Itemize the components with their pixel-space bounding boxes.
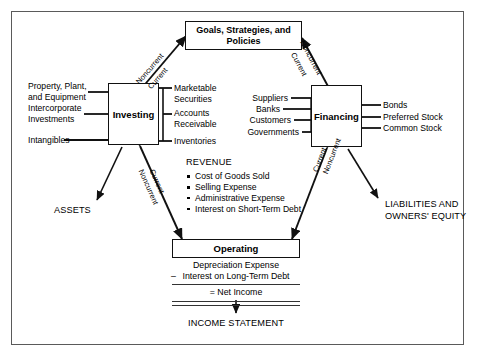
label-customers: Customers: [238, 115, 291, 126]
label-banks: Banks: [238, 104, 280, 115]
label-governments: Governments: [238, 127, 299, 138]
revenue-item: Selling Expense: [186, 182, 304, 192]
income-line-interest-text: Interest on Long-Term Debt: [182, 271, 289, 281]
node-operating[interactable]: Operating: [172, 239, 300, 258]
income-operator-equals: =: [210, 287, 215, 297]
node-investing[interactable]: Investing: [108, 83, 159, 145]
income-rule-single: [172, 284, 300, 285]
node-goals-strategies-policies[interactable]: Goals, Strategies, and Policies: [185, 21, 302, 50]
revenue-item: Interest on Short-Term Debt: [186, 204, 304, 214]
revenue-list: Cost of Goods Sold Selling Expense Admin…: [186, 171, 304, 214]
edge-financing-liabilities: [348, 149, 378, 198]
diagram-page: Goals, Strategies, and Policies Investin…: [0, 0, 477, 359]
label-liabilities-owners-equity: LIABILITIES AND OWNERS' EQUITY: [385, 199, 466, 222]
revenue-item: Administrative Expense: [186, 193, 304, 203]
income-statement-block: Depreciation Expense – Interest on Long-…: [172, 260, 300, 306]
revenue-heading: REVENUE: [186, 157, 304, 167]
income-rule-double: [172, 301, 300, 306]
label-bonds: Bonds: [383, 100, 463, 111]
node-investing-label: Investing: [113, 109, 155, 120]
label-accounts-receivable: Accounts Receivable: [174, 108, 244, 129]
label-intangibles: Intangibles: [28, 135, 88, 146]
label-marketable-securities: Marketable Securities: [174, 83, 244, 104]
label-property-plant-equipment: Property, Plant, and Equipment: [28, 81, 90, 102]
income-statement-footer: INCOME STATEMENT: [172, 318, 300, 328]
node-financing-label: Financing: [314, 111, 359, 122]
label-common-stock: Common Stock: [383, 123, 468, 134]
label-assets: ASSETS: [54, 205, 91, 217]
revenue-block: REVENUE Cost of Goods Sold Selling Expen…: [186, 157, 304, 215]
income-operator-minus: –: [171, 271, 176, 282]
income-line-net-income-text: Net Income: [217, 287, 262, 297]
label-suppliers: Suppliers: [238, 93, 288, 104]
label-intercorporate-investments: Intercorporate Investments: [28, 103, 86, 124]
income-line-depreciation: Depreciation Expense: [172, 260, 300, 271]
income-line-net-income: = Net Income: [172, 287, 300, 298]
revenue-item: Cost of Goods Sold: [186, 171, 304, 181]
income-line-interest-long-term: – Interest on Long-Term Debt: [172, 271, 300, 282]
label-preferred-stock: Preferred Stock: [383, 112, 468, 123]
label-inventories: Inventories: [174, 136, 244, 147]
node-goals-label: Goals, Strategies, and Policies: [186, 25, 301, 47]
node-operating-label: Operating: [214, 243, 259, 254]
edge-investing-assets: [97, 147, 122, 200]
